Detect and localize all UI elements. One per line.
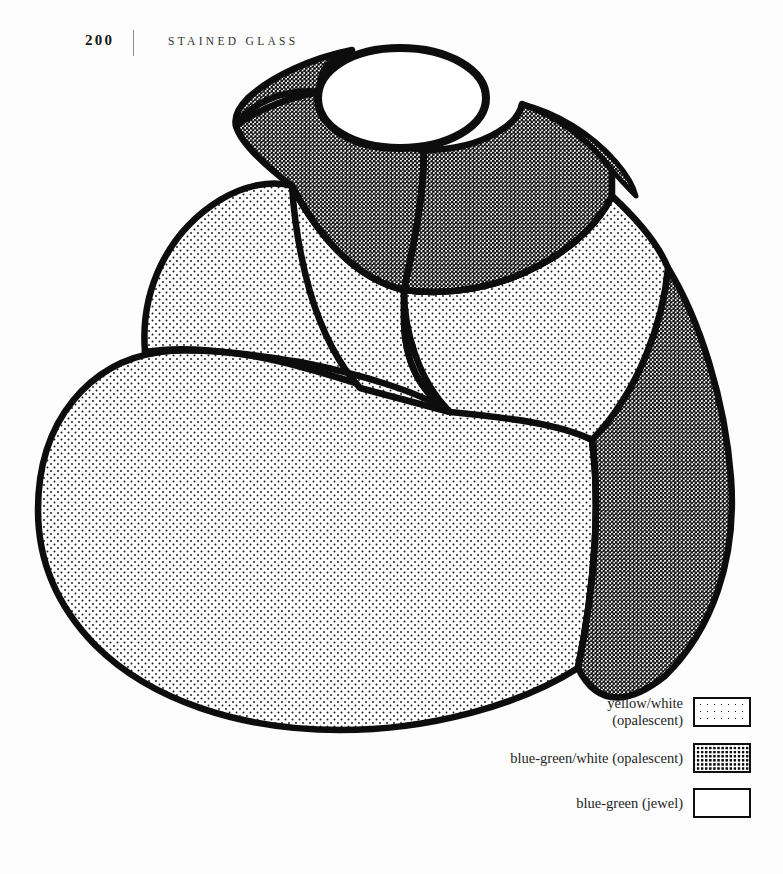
- legend-label: blue-green (jewel): [576, 795, 693, 812]
- legend-label: blue-green/white (opalescent): [510, 750, 693, 767]
- legend-item-yellow-white: yellow/white (opalescent): [455, 695, 751, 729]
- legend-swatch-light-dot: [693, 697, 751, 727]
- legend-swatch-plain: [693, 788, 751, 818]
- legend-swatch-dark-dot: [693, 743, 751, 773]
- region-crown-aperture: [318, 48, 486, 148]
- legend-label: yellow/white (opalescent): [607, 695, 693, 729]
- book-page: 200 STAINED GLASS: [0, 0, 783, 874]
- legend-item-blue-green-jewel: blue-green (jewel): [455, 788, 751, 818]
- legend-item-blue-green-white: blue-green/white (opalescent): [455, 743, 751, 773]
